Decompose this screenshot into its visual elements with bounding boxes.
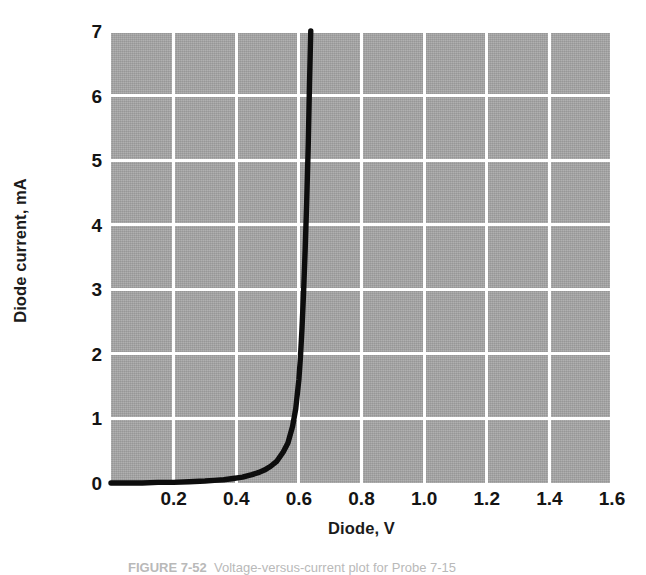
y-axis-title: Diode current, mA — [0, 0, 40, 500]
x-tick-label: 0.2 — [144, 489, 204, 508]
x-tick-label: 0.4 — [206, 489, 266, 508]
y-tick-label: 1 — [62, 409, 102, 428]
y-tick-label: 0 — [62, 474, 102, 493]
x-tick-label: 1.2 — [457, 489, 517, 508]
y-tick-label: 5 — [62, 151, 102, 170]
plot-area — [111, 31, 612, 483]
y-tick-label: 4 — [62, 215, 102, 234]
y-axis-tick-labels: 01234567 — [62, 31, 102, 483]
x-tick-label: 0.8 — [332, 489, 392, 508]
x-axis-title: Diode, V — [111, 519, 612, 538]
x-axis-tick-labels: 0.20.40.60.81.01.21.41.6 — [111, 489, 612, 517]
figure-caption-label: FIGURE 7-52 — [128, 561, 207, 575]
diode-iv-figure: Diode current, mA 01234567 0.20.40.60.81… — [0, 0, 646, 575]
figure-caption-body: Voltage-versus-current plot for Probe 7-… — [214, 561, 456, 575]
y-tick-label: 3 — [62, 280, 102, 299]
y-tick-label: 2 — [62, 344, 102, 363]
y-tick-label: 6 — [62, 86, 102, 105]
x-tick-label: 1.0 — [394, 489, 454, 508]
x-tick-label: 1.6 — [582, 489, 642, 508]
y-axis-title-label: Diode current, mA — [11, 178, 30, 323]
figure-caption-text: FIGURE 7-52 Voltage-versus-current plot … — [128, 561, 628, 575]
diode-curve — [111, 31, 612, 483]
figure-caption: FIGURE 7-52 Voltage-versus-current plot … — [128, 561, 628, 575]
x-tick-label: 1.4 — [519, 489, 579, 508]
x-tick-label: 0.6 — [269, 489, 329, 508]
y-tick-label: 7 — [62, 22, 102, 41]
